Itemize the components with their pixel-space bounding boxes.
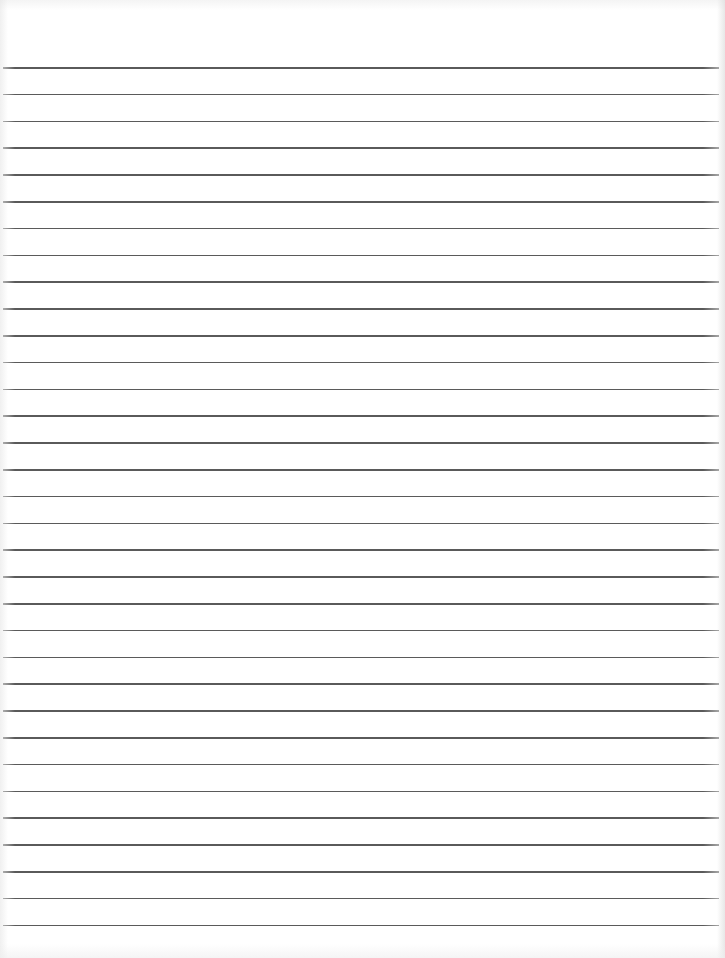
ruled-line — [3, 335, 719, 337]
ruled-line — [3, 657, 719, 659]
ruled-line — [3, 764, 719, 766]
ruled-line — [3, 683, 719, 685]
ruled-line — [3, 576, 719, 578]
ruled-line — [3, 549, 719, 551]
ruled-line — [3, 362, 719, 364]
ruled-line — [3, 710, 719, 712]
ruled-line — [3, 791, 719, 793]
ruled-line — [3, 844, 719, 846]
ruled-line — [3, 630, 719, 632]
ruled-line — [3, 898, 719, 900]
bottom-edge-shading — [0, 944, 725, 958]
right-edge-shading — [717, 0, 725, 958]
ruled-line — [3, 94, 719, 96]
ruled-line — [3, 147, 719, 149]
ruled-line — [3, 174, 719, 176]
ruled-line — [3, 308, 719, 310]
ruled-line — [3, 67, 719, 69]
ruled-line — [3, 255, 719, 257]
ruled-line — [3, 925, 719, 927]
ruled-line — [3, 817, 719, 819]
ruled-line — [3, 737, 719, 739]
ruled-line — [3, 389, 719, 391]
ruled-line — [3, 228, 719, 230]
ruled-line — [3, 523, 719, 525]
lined-paper-sheet — [0, 0, 725, 958]
ruled-line — [3, 469, 719, 471]
ruled-line — [3, 603, 719, 605]
ruled-line — [3, 121, 719, 123]
ruled-line — [3, 281, 719, 283]
ruled-line — [3, 871, 719, 873]
ruled-line — [3, 496, 719, 498]
left-edge-shading — [0, 0, 8, 958]
ruled-line — [3, 201, 719, 203]
ruled-line — [3, 442, 719, 444]
top-edge-shading — [0, 0, 725, 10]
ruled-line — [3, 415, 719, 417]
